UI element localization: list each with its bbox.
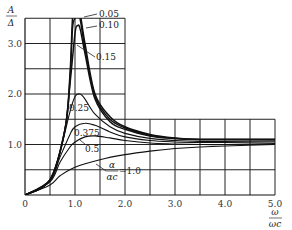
x-tick-label: 1.0 <box>68 199 83 209</box>
y-tick-label: 1.0 <box>8 140 23 150</box>
y-axis-label: A Δ <box>6 5 17 28</box>
curve-label: 0.05 <box>99 9 119 19</box>
svg-text:ω: ω <box>271 207 279 217</box>
svg-text:Δ: Δ <box>7 18 15 28</box>
x-tick-label: 0 <box>22 199 28 209</box>
svg-text:α: α <box>109 160 115 170</box>
curve-label: 0.5 <box>85 144 100 154</box>
svg-text:=1.0: =1.0 <box>119 166 141 176</box>
svg-text:αc: αc <box>106 172 117 182</box>
x-axis-label: ω ωc <box>269 207 282 229</box>
x-tick-label: 3.0 <box>168 199 183 209</box>
x-tick-label: 2.0 <box>118 199 133 209</box>
svg-text:A: A <box>7 5 15 15</box>
legend-label: α αc =1.0 <box>106 160 141 182</box>
y-tick-label: 3.0 <box>8 39 23 49</box>
curve-label: 0.25 <box>69 103 89 113</box>
curve-label: 0.375 <box>74 128 100 138</box>
curve-label: 0.10 <box>99 20 119 30</box>
curve-label: 0.15 <box>96 52 116 62</box>
leader-line <box>84 14 97 17</box>
y-tick-label: 2.0 <box>8 89 23 99</box>
svg-text:ωc: ωc <box>269 219 281 229</box>
leader-line <box>86 26 97 28</box>
resonance-chart: 01.02.03.04.05.01.02.03.0 0.050.100.150.… <box>0 0 292 230</box>
grid <box>25 18 275 195</box>
x-tick-label: 4.0 <box>218 199 233 209</box>
